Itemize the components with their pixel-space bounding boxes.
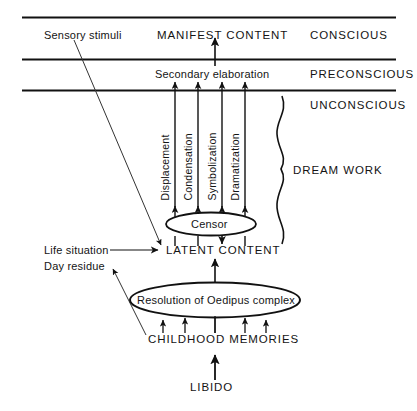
dream-work-brace bbox=[277, 96, 284, 244]
childhood-memories-label: CHILDHOOD MEMORIES bbox=[148, 334, 299, 346]
libido-label: LIBIDO bbox=[190, 382, 233, 394]
oedipus-label: Resolution of Oedipus complex bbox=[137, 294, 295, 306]
dream-work-label: DREAM WORK bbox=[293, 165, 383, 177]
secondary-elaboration-label: Secondary elaboration bbox=[155, 69, 269, 80]
latent-content-label: LATENT CONTENT bbox=[166, 245, 280, 257]
mechanism-label-displacement: Displacement bbox=[160, 134, 171, 200]
level-label-preconscious: PRECONSCIOUS bbox=[310, 69, 414, 81]
mechanism-label-symbolization: Symbolization bbox=[207, 133, 218, 201]
manifest-content-label: MANIFEST CONTENT bbox=[157, 30, 288, 42]
sensory-stimuli-arrow bbox=[74, 40, 161, 245]
mechanism-label-condensation: Condensation bbox=[183, 133, 194, 200]
oedipus-ellipse-group bbox=[130, 283, 300, 334]
sensory-stimuli-label: Sensory stimuli bbox=[44, 30, 122, 41]
level-label-unconscious: UNCONSCIOUS bbox=[310, 100, 406, 112]
diagram-canvas bbox=[0, 0, 417, 411]
mechanism-label-dramatization: Dramatization bbox=[230, 133, 241, 200]
life-situation-label: Life situation bbox=[44, 245, 109, 256]
censor-label: Censor bbox=[191, 218, 228, 230]
level-label-conscious: CONSCIOUS bbox=[310, 30, 388, 42]
dream-work-diagram: CONSCIOUS PRECONSCIOUS UNCONSCIOUS Senso… bbox=[0, 0, 417, 411]
day-residue-label: Day residue bbox=[44, 261, 105, 272]
